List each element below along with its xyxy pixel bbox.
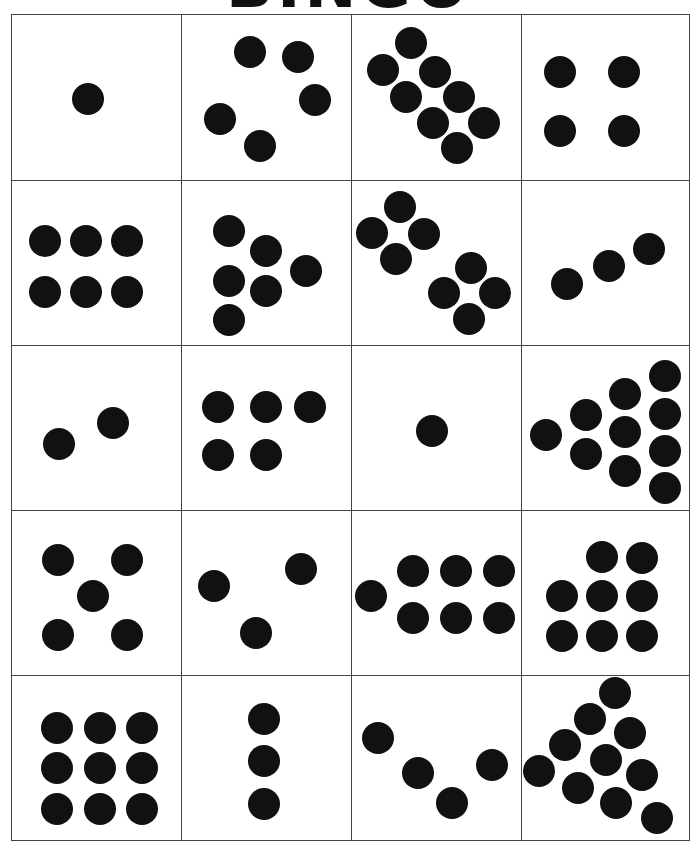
dot [649, 360, 681, 392]
dot [380, 243, 412, 275]
dot [570, 438, 602, 470]
dot [586, 620, 618, 652]
bingo-cell[interactable]: 10 [522, 346, 689, 511]
bingo-cell[interactable]: 8 [522, 511, 689, 676]
dot [586, 541, 618, 573]
dot [574, 703, 606, 735]
dot [213, 304, 245, 336]
dot [126, 793, 158, 825]
dot [248, 745, 280, 777]
dot [428, 277, 460, 309]
dot [126, 712, 158, 744]
dot [77, 580, 109, 612]
bingo-cell[interactable]: 8 [352, 181, 522, 346]
dot [608, 56, 640, 88]
dot [202, 439, 234, 471]
dot [530, 419, 562, 451]
dot-group [12, 15, 181, 180]
dot [609, 378, 641, 410]
dot [649, 398, 681, 430]
page-title: BINGO [0, 0, 698, 12]
dot-group [352, 15, 521, 180]
dot [551, 268, 583, 300]
bingo-cell[interactable]: 8 [352, 15, 522, 181]
dot [70, 225, 102, 257]
bingo-cell[interactable]: 3 [182, 511, 352, 676]
dot [483, 602, 515, 634]
dot [198, 570, 230, 602]
dot [549, 729, 581, 761]
dot [479, 277, 511, 309]
dot [483, 555, 515, 587]
dot [417, 107, 449, 139]
dot [282, 41, 314, 73]
dot [544, 56, 576, 88]
bingo-cell[interactable]: 5 [182, 15, 352, 181]
dot [544, 115, 576, 147]
dot [590, 744, 622, 776]
bingo-cell[interactable]: 4 [352, 676, 522, 840]
dot-group [182, 15, 351, 180]
dot [84, 712, 116, 744]
dot [367, 54, 399, 86]
dot [248, 788, 280, 820]
bingo-cell[interactable]: 3 [182, 676, 352, 840]
dot [609, 455, 641, 487]
dot [250, 439, 282, 471]
bingo-cell[interactable]: 3 [522, 181, 689, 346]
bingo-cell[interactable]: 5 [12, 511, 182, 676]
dot [294, 391, 326, 423]
dot [633, 233, 665, 265]
dot [390, 81, 422, 113]
dot-group [182, 511, 351, 675]
dot [111, 619, 143, 651]
dot [244, 130, 276, 162]
dot [240, 617, 272, 649]
dot [250, 275, 282, 307]
bingo-cell[interactable]: 4 [522, 15, 689, 181]
dot [416, 415, 448, 447]
dot-group [352, 181, 521, 345]
dot [202, 391, 234, 423]
dot [546, 620, 578, 652]
bingo-cell[interactable]: 1 [352, 346, 522, 511]
dot-group [522, 346, 689, 510]
bingo-cell[interactable]: 1 [12, 15, 182, 181]
dot-group [522, 676, 689, 840]
dot [586, 580, 618, 612]
dot [523, 755, 555, 787]
dot-group [182, 181, 351, 345]
bingo-cell[interactable]: 2 [12, 346, 182, 511]
dot [395, 27, 427, 59]
dot [402, 757, 434, 789]
dot [250, 235, 282, 267]
bingo-cell[interactable]: 7 [352, 511, 522, 676]
dot-group [522, 181, 689, 345]
dot [614, 717, 646, 749]
dot [42, 619, 74, 651]
dot-group [522, 15, 689, 180]
dot [213, 215, 245, 247]
dot [42, 544, 74, 576]
dot-group [12, 511, 181, 675]
bingo-cell[interactable]: 6 [182, 181, 352, 346]
bingo-cell[interactable]: 9 [12, 676, 182, 840]
dot [111, 544, 143, 576]
dot [441, 132, 473, 164]
dot-group [12, 181, 181, 345]
dot [384, 191, 416, 223]
dot [440, 555, 472, 587]
dot [626, 580, 658, 612]
dot [250, 391, 282, 423]
dot-group [182, 346, 351, 510]
dot [41, 752, 73, 784]
dot [443, 81, 475, 113]
dot [29, 225, 61, 257]
dot-group [182, 676, 351, 840]
bingo-cell[interactable]: 6 [12, 181, 182, 346]
dot [204, 103, 236, 135]
dot [453, 303, 485, 335]
bingo-cell[interactable]: 5 [182, 346, 352, 511]
dot [599, 677, 631, 709]
bingo-cell[interactable]: 10 [522, 676, 689, 840]
